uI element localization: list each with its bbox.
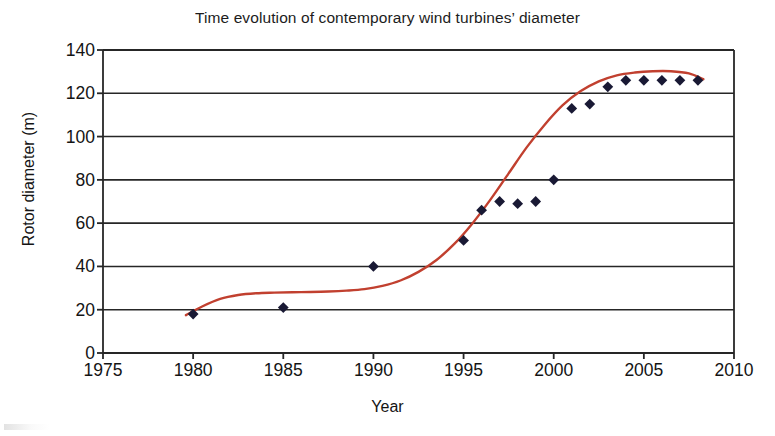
- data-point-marker: [656, 75, 667, 86]
- data-point-marker: [638, 75, 649, 86]
- data-point-marker: [548, 174, 559, 185]
- data-point-marker: [494, 196, 505, 207]
- data-point-marker: [566, 103, 577, 114]
- data-point-marker: [675, 75, 686, 86]
- data-point-marker: [368, 261, 379, 272]
- data-point-marker: [530, 196, 541, 207]
- data-point-marker: [602, 81, 613, 92]
- data-point-marker: [584, 99, 595, 110]
- chart-figure: Time evolution of contemporary wind turb…: [0, 0, 775, 436]
- trendline-path: [186, 71, 703, 315]
- trendline: [186, 71, 703, 315]
- data-point-marker: [278, 302, 289, 313]
- data-point-marker: [620, 75, 631, 86]
- data-point-marker: [693, 75, 704, 86]
- data-point-marker: [512, 198, 523, 209]
- plot-area: [0, 0, 775, 436]
- data-point-markers: [188, 75, 704, 320]
